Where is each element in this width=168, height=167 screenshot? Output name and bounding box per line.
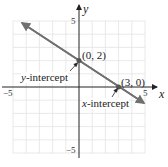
- point-label-0-2: (0, 2): [82, 50, 106, 61]
- y-tick-5: 5: [71, 17, 76, 26]
- point-label-3-0: (3, 0): [121, 77, 145, 88]
- y-axis-label: y: [83, 3, 88, 15]
- annotation-arrows: [70, 63, 118, 97]
- point-y-intercept: [77, 58, 82, 63]
- y-tick-neg5: −5: [66, 146, 76, 155]
- x-tick-5: 5: [143, 89, 148, 98]
- y-intercept-label: y-intercept: [21, 72, 68, 83]
- x-axis-label: x: [159, 88, 164, 100]
- x-tick-neg5: −5: [3, 89, 13, 98]
- x-intercept-label: x-intercept: [82, 98, 129, 109]
